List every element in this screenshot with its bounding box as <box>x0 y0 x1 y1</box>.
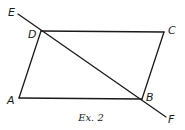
segment-da <box>19 31 41 98</box>
label-e: E <box>8 6 15 19</box>
label-a: A <box>6 94 15 107</box>
transversal-ef <box>18 14 166 117</box>
label-d: D <box>28 28 36 41</box>
label-b: B <box>146 91 154 104</box>
label-f: F <box>168 113 175 126</box>
label-c: C <box>168 24 176 37</box>
segment-cd <box>41 31 164 32</box>
caption: Ex. 2 <box>77 112 104 123</box>
segment-bc <box>142 32 164 99</box>
parallelogram-diagram: E D C A B F Ex. 2 <box>0 0 185 130</box>
segment-ab <box>19 98 142 99</box>
